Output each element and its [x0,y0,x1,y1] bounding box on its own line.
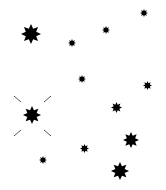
star-icon[interactable] [143,81,152,90]
star-icon[interactable] [39,156,47,164]
sparkle-line [44,96,51,102]
sparkle-line [14,130,21,136]
star-icon[interactable] [123,132,139,148]
star-icon[interactable] [111,162,129,180]
star-field-canvas [0,0,166,190]
star-icon[interactable] [140,9,148,17]
star-icon[interactable] [102,26,110,34]
sparkle-line [14,96,21,102]
star-icon[interactable] [78,75,86,83]
star-icon[interactable] [111,102,122,113]
sparkle-line [44,130,51,136]
star-icon[interactable] [68,39,76,47]
star-icon[interactable] [21,24,41,44]
star-icon-highlighted[interactable] [23,106,41,124]
star-icon[interactable] [80,144,89,153]
